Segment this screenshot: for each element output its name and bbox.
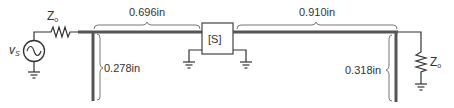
load-impedance-label: Zo (430, 56, 441, 72)
source-resistor-icon (48, 27, 78, 37)
transmission-line-diagram: Zo vS 0.696in 0.910in [S] 0.278in 0.318i… (0, 0, 454, 108)
left-series-length-label: 0.696in (129, 6, 165, 18)
right-series-length-label: 0.910in (299, 6, 335, 18)
left-length-brace (94, 22, 200, 29)
source-impedance-label: Zo (47, 10, 58, 26)
ground-icon (240, 62, 252, 68)
right-length-brace (237, 22, 397, 29)
ground-icon (28, 72, 40, 78)
ac-source-icon (24, 41, 45, 62)
source-voltage-label: vS (9, 44, 20, 60)
ground-icon (183, 62, 195, 68)
right-stub-brace (386, 35, 392, 101)
right-stub-length-label: 0.318in (345, 64, 381, 76)
left-stub-brace (97, 34, 103, 100)
s-parameter-label: [S] (208, 33, 221, 45)
ground-icon (415, 84, 427, 90)
load-resistor-icon (416, 50, 426, 84)
load-wire (398, 32, 421, 50)
circuit-schematic (0, 0, 454, 108)
left-stub-length-label: 0.278in (104, 62, 140, 74)
